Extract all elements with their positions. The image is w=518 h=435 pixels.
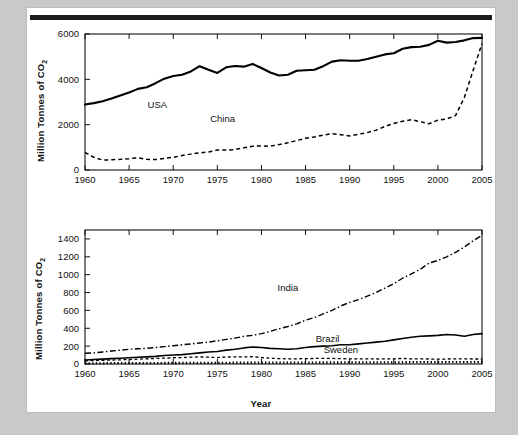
- y-axis-label-bottom-text: Million Tonnes of CO: [33, 262, 44, 360]
- series-label-india: India: [278, 282, 299, 293]
- x-axis-label: Year: [27, 398, 495, 409]
- y-tick-label: 1200: [58, 251, 79, 262]
- series-line-china: [85, 44, 482, 161]
- chart-top-usa-china: Million Tonnes of CO2 020004000600019601…: [27, 22, 495, 202]
- series-label-china: China: [210, 113, 236, 124]
- series-line-brazil: [85, 334, 482, 360]
- series-line-baseline-dotted: [85, 362, 482, 363]
- x-tick-label: 1990: [339, 174, 360, 185]
- x-tick-label: 1985: [295, 368, 316, 379]
- x-tick-label: 1995: [383, 174, 404, 185]
- y-tick-label: 800: [63, 287, 79, 298]
- x-tick-label: 2005: [471, 174, 492, 185]
- x-tick-label: 1985: [295, 174, 316, 185]
- y-axis-label-top-subscript: 2: [41, 60, 48, 64]
- plot-area-bottom: 0200400600800100012001400196019651970197…: [27, 212, 495, 392]
- x-tick-label: 1975: [207, 174, 228, 185]
- x-tick-label: 1995: [383, 368, 404, 379]
- y-tick-label: 2000: [58, 119, 79, 130]
- x-tick-label: 1980: [251, 368, 272, 379]
- plot-area-top: 0200040006000196019651970197519801985199…: [27, 22, 495, 202]
- y-tick-label: 400: [63, 323, 79, 334]
- x-tick-label: 1970: [163, 368, 184, 379]
- y-axis-label-bottom-subscript: 2: [39, 258, 46, 262]
- y-tick-label: 1000: [58, 269, 79, 280]
- x-tick-label: 1990: [339, 368, 360, 379]
- chart-bottom-india-brazil-sweden: Million Tonnes of CO2 020040060080010001…: [27, 212, 495, 412]
- y-tick-label: 4000: [58, 74, 79, 85]
- y-tick-label: 1400: [58, 233, 79, 244]
- series-line-usa: [85, 38, 482, 105]
- x-tick-label: 2005: [471, 368, 492, 379]
- x-tick-label: 1965: [119, 368, 140, 379]
- series-label-usa: USA: [148, 99, 168, 110]
- x-tick-label: 2000: [427, 174, 448, 185]
- x-tick-label: 1960: [74, 174, 95, 185]
- x-tick-label: 1980: [251, 174, 272, 185]
- y-tick-label: 200: [63, 341, 79, 352]
- y-axis-label-bottom: Million Tonnes of CO2: [33, 258, 46, 360]
- x-tick-label: 2000: [427, 368, 448, 379]
- y-axis-label-top: Million Tonnes of CO2: [35, 60, 48, 162]
- y-tick-label: 600: [63, 305, 79, 316]
- page-background: Million Tonnes of CO2 020004000600019601…: [0, 0, 518, 435]
- series-label-brazil: Brazil: [316, 333, 340, 344]
- x-tick-label: 1975: [207, 368, 228, 379]
- x-tick-label: 1960: [74, 368, 95, 379]
- y-axis-label-top-text: Million Tonnes of CO: [35, 64, 46, 162]
- y-tick-label: 6000: [58, 28, 79, 39]
- x-tick-label: 1965: [119, 174, 140, 185]
- x-tick-label: 1970: [163, 174, 184, 185]
- series-label-sweden: Sweden: [324, 344, 358, 355]
- top-rule: [30, 15, 492, 20]
